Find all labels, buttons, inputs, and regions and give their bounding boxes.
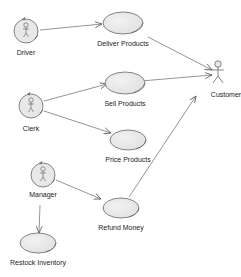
actor-clerk[interactable]: Clerk (19, 93, 43, 133)
usecase-sell-products[interactable]: Sell Products (104, 72, 146, 107)
use-case-diagram: Driver Clerk (0, 0, 241, 277)
actor-label: Driver (17, 49, 36, 56)
usecase-restock-inventory[interactable]: Restock Inventory (10, 233, 67, 267)
usecase-label: Deliver Products (97, 40, 149, 47)
assoc-driver-deliver[interactable] (40, 24, 102, 30)
usecase-ellipse-icon (103, 12, 143, 34)
usecase-refund-money[interactable]: Refund Money (98, 198, 144, 232)
usecase-label: Price Products (105, 156, 151, 163)
assoc-deliver-customer[interactable] (148, 37, 212, 70)
business-worker-icon (19, 93, 43, 119)
assoc-clerk-sell[interactable] (44, 84, 107, 101)
assoc-manager-restock[interactable] (39, 205, 40, 233)
business-worker-icon (14, 18, 38, 44)
actor-label: Clerk (23, 125, 40, 132)
business-worker-icon (31, 162, 55, 188)
usecase-label: Restock Inventory (10, 259, 67, 267)
actor-label: Manager (29, 191, 57, 199)
stick-figure-icon (212, 61, 224, 83)
usecase-label: Refund Money (98, 224, 144, 232)
usecase-label: Sell Products (104, 100, 146, 107)
assoc-sell-customer[interactable] (141, 75, 212, 81)
actor-driver[interactable]: Driver (14, 18, 38, 57)
actor-label: Customer (211, 91, 241, 98)
usecase-deliver-products[interactable]: Deliver Products (97, 12, 149, 47)
actor-customer[interactable]: Customer (211, 61, 241, 98)
usecase-price-products[interactable]: Price Products (105, 130, 151, 163)
assoc-manager-refund[interactable] (56, 180, 101, 199)
assoc-clerk-price[interactable] (44, 111, 111, 133)
actor-manager[interactable]: Manager (29, 162, 57, 200)
usecase-ellipse-icon (105, 72, 145, 94)
